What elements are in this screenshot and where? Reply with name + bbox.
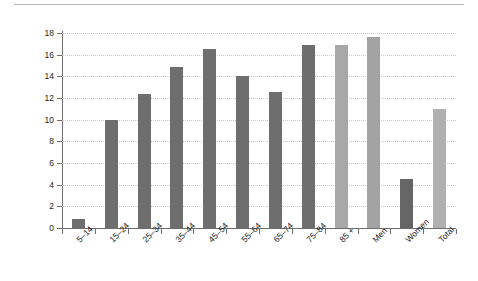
y-axis-tick-label: 16	[34, 51, 54, 60]
x-axis-tick	[95, 229, 96, 234]
y-axis-tick	[57, 76, 62, 77]
gridline	[62, 163, 456, 165]
y-axis-tick-label: 8	[34, 137, 54, 146]
x-axis-tick	[62, 229, 63, 234]
bar	[138, 94, 151, 228]
y-axis-tick-label: 12	[34, 94, 54, 103]
y-axis-tick-label: 14	[34, 72, 54, 81]
x-axis-tick	[390, 229, 391, 234]
y-axis-tick	[57, 33, 62, 34]
y-axis-tick	[57, 98, 62, 99]
gridline	[62, 76, 456, 78]
x-axis-tick	[292, 229, 293, 234]
x-axis-tick	[161, 229, 162, 234]
y-axis-tick	[57, 206, 62, 207]
gridline	[62, 120, 456, 122]
x-axis-tick	[325, 229, 326, 234]
gridline	[62, 98, 456, 100]
y-axis-tick	[57, 163, 62, 164]
bar	[400, 179, 413, 228]
bar	[367, 37, 380, 228]
y-axis-tick-label: 6	[34, 159, 54, 168]
bar	[302, 45, 315, 228]
x-axis-tick	[358, 229, 359, 234]
bar	[203, 49, 216, 228]
x-axis-tick	[193, 229, 194, 234]
gridline	[62, 206, 456, 208]
x-axis-tick	[259, 229, 260, 234]
y-axis-tick-label: 10	[34, 116, 54, 125]
gridline	[62, 141, 456, 143]
y-axis-tick-label: 2	[34, 202, 54, 211]
gridline	[62, 55, 456, 57]
y-axis-tick	[57, 185, 62, 186]
plot-area	[62, 33, 456, 228]
y-axis-tick	[57, 120, 62, 121]
bar	[269, 92, 282, 229]
y-axis-tick	[57, 141, 62, 142]
y-axis-tick-label: 0	[34, 224, 54, 233]
gridline	[62, 185, 456, 187]
bar	[236, 76, 249, 228]
bar	[433, 109, 446, 228]
x-axis-tick	[226, 229, 227, 234]
y-axis-tick-label: 4	[34, 181, 54, 190]
top-divider	[14, 4, 464, 5]
bar	[170, 67, 183, 228]
y-axis-tick	[57, 55, 62, 56]
x-axis-tick	[456, 229, 457, 234]
chart-figure: Suicides per 100,000 population 02468101…	[0, 0, 478, 281]
x-axis-tick	[423, 229, 424, 234]
x-axis-tick-label: Men	[371, 226, 389, 244]
x-axis-tick	[128, 229, 129, 234]
gridline	[62, 33, 456, 35]
bar	[335, 45, 348, 228]
bar	[105, 120, 118, 228]
y-axis-tick-label: 18	[34, 29, 54, 38]
